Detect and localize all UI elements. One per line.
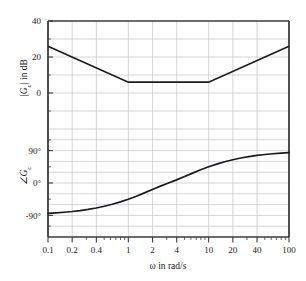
x-tick-label: 2 bbox=[150, 245, 155, 255]
x-tick-label: 0.2 bbox=[67, 245, 78, 255]
x-tick-label: 20 bbox=[228, 245, 238, 255]
magnitude-tick-label: 20 bbox=[32, 52, 42, 62]
phase-tick-label: -90° bbox=[25, 211, 41, 221]
x-axis-title: ω in rad/s bbox=[150, 261, 187, 271]
phase-tick-label: 0° bbox=[33, 178, 42, 188]
bode-plot-canvas: 0.10.20.4124102040100 4020090°0°-90° ω i… bbox=[0, 0, 306, 281]
magnitude-tick-label: 0 bbox=[37, 88, 42, 98]
x-tick-label: 100 bbox=[282, 245, 296, 255]
x-tick-label: 10 bbox=[204, 245, 214, 255]
bode-plot-figure: 0.10.20.4124102040100 4020090°0°-90° ω i… bbox=[0, 0, 306, 281]
x-tick-label: 1 bbox=[126, 245, 131, 255]
phase-tick-label: 90° bbox=[28, 146, 41, 156]
x-tick-label: 0.4 bbox=[91, 245, 103, 255]
x-tick-label: 0.1 bbox=[42, 245, 53, 255]
magnitude-tick-label: 40 bbox=[32, 16, 42, 26]
x-tick-label: 40 bbox=[253, 245, 263, 255]
x-tick-label: 4 bbox=[174, 245, 179, 255]
